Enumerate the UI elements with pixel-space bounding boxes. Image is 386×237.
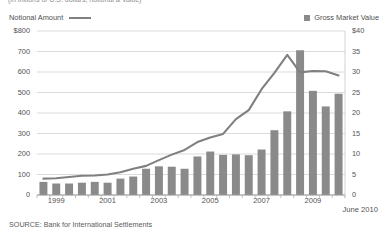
end-period-label: June 2010 — [343, 205, 378, 214]
right-axis-tick: 15 — [352, 130, 380, 138]
source-note: SOURCE: Bank for International Settlemen… — [9, 220, 152, 229]
left-axis-tick: 200 — [0, 150, 30, 158]
x-axis-tick: 2007 — [253, 196, 270, 205]
chart-title-text: (in trillions of U.S. dollars; notional … — [8, 0, 368, 4]
left-axis-tick: 300 — [0, 130, 30, 138]
left-axis-tick: 100 — [0, 171, 30, 179]
right-axis-tick: 10 — [352, 150, 380, 158]
x-axis-tick: 2005 — [202, 196, 219, 205]
x-axis-tick: 2003 — [150, 196, 167, 205]
left-axis-tick: 500 — [0, 89, 30, 97]
legend-label-gross-market-value: Gross Market Value — [314, 13, 379, 23]
left-axis-tick: 600 — [0, 68, 30, 76]
left-axis-tick: 400 — [0, 109, 30, 117]
left-axis-tick: 700 — [0, 48, 30, 56]
chart-canvas — [0, 28, 386, 198]
chart-plot-area: $8007006005004003002001000 $403530252015… — [0, 28, 386, 198]
legend-item-notional-amount: Notional Amount — [9, 13, 91, 23]
right-axis-tick: 25 — [352, 89, 380, 97]
right-axis-tick: $40 — [352, 27, 380, 35]
chart-title: (in trillions of U.S. dollars; notional … — [8, 0, 368, 4]
x-axis-tick: 2001 — [99, 196, 116, 205]
left-axis-tick: $800 — [0, 27, 30, 35]
right-axis-tick: 20 — [352, 109, 380, 117]
x-axis-labels: 199920012003200520072009 — [0, 196, 386, 210]
chart-legend: Notional Amount Gross Market Value — [0, 13, 386, 27]
legend-label-notional-amount: Notional Amount — [9, 13, 63, 23]
x-axis-tick: 2009 — [304, 196, 321, 205]
right-axis-tick: 35 — [352, 48, 380, 56]
legend-item-gross-market-value: Gross Market Value — [304, 13, 379, 23]
right-axis-tick: 5 — [352, 171, 380, 179]
x-axis-tick: 1999 — [48, 196, 65, 205]
line-swatch-icon — [69, 17, 91, 19]
right-axis-tick: 30 — [352, 68, 380, 76]
square-swatch-icon — [304, 15, 310, 21]
